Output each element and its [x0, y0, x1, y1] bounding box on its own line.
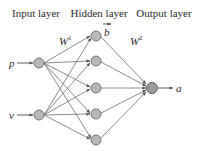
- w2-label: W 2: [130, 34, 143, 47]
- neural-network-diagram: Input layer Hidden layer Output layer W …: [0, 0, 201, 153]
- hidden-node-1: [91, 31, 101, 41]
- output-node: [147, 83, 158, 94]
- hidden-node-3: [91, 83, 101, 93]
- bias-vector-label: b: [103, 24, 111, 38]
- svg-text:a: a: [176, 82, 182, 94]
- output-a: a: [158, 82, 182, 94]
- hidden-layer-title: Hidden layer: [70, 7, 127, 19]
- input-node-p: [34, 58, 44, 68]
- input-node-v: [34, 110, 44, 120]
- hidden-node-5: [91, 135, 101, 145]
- hidden-output-edges: [101, 37, 146, 138]
- svg-text:2: 2: [139, 34, 143, 42]
- svg-text:b: b: [104, 26, 110, 38]
- hidden-node-4: [91, 109, 101, 119]
- svg-text:1: 1: [68, 34, 72, 42]
- hidden-node-2: [91, 56, 101, 66]
- w1-label: W 1: [59, 34, 72, 47]
- input-p: p: [8, 57, 33, 69]
- input-hidden-edges: [44, 36, 91, 139]
- input-layer-title: Input layer: [12, 7, 60, 19]
- output-layer-title: Output layer: [136, 7, 192, 19]
- svg-text:p: p: [8, 57, 15, 69]
- input-v: v: [9, 109, 33, 121]
- svg-text:v: v: [9, 109, 14, 121]
